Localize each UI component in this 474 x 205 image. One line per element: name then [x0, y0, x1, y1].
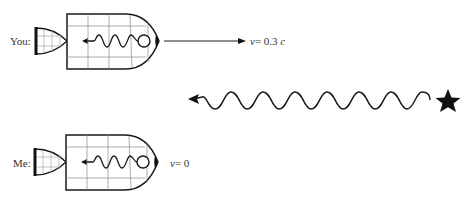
velocity-value: = 0.3: [255, 35, 280, 47]
velocity-label-you: v= 0.3 c: [250, 35, 285, 47]
rocket-you: [36, 14, 159, 69]
arrowhead-icon: [188, 94, 199, 104]
rocket-me: [35, 135, 158, 190]
velocity-value: = 0: [175, 157, 189, 169]
velocity-label-me: v= 0: [170, 157, 189, 169]
star-icon: [436, 89, 461, 112]
label-you: You:: [10, 35, 31, 47]
speed-of-light-symbol: c: [280, 35, 285, 47]
label-me: Me:: [13, 157, 31, 169]
light-wave: [188, 92, 430, 109]
velocity-arrow-you: [164, 38, 246, 44]
diagram-canvas: [0, 0, 474, 205]
